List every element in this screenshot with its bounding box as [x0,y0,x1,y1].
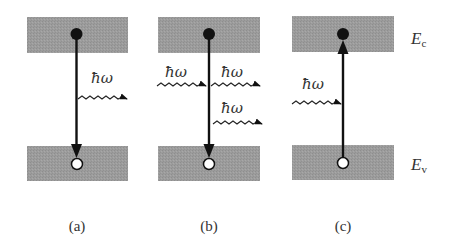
panel-b: ħω ħω ħω (b) [157,17,262,235]
photon-energy-label: ħω [91,69,113,87]
electron [337,28,349,40]
electron [203,28,215,40]
svg-text:Ec: Ec [410,29,426,49]
panel-caption: (a) [69,218,86,235]
svg-text:Ev: Ev [410,155,427,175]
panel-a: ħω (a) [27,17,128,235]
photon-wave-incoming [292,101,341,104]
valence-band-label: Ev [410,155,427,175]
band-diagram: ħω (a) ħω ħω ħω (b) ħω (c) Ec Ev [0,0,460,249]
photon-wave-outgoing [211,83,260,86]
energy-symbol: E [410,29,422,48]
photon-energy-label: ħω [221,99,243,117]
energy-subscript: v [421,163,427,175]
hole [72,159,83,170]
photon-wave-outgoing [213,121,262,124]
energy-subscript: c [421,37,426,49]
energy-symbol: E [410,155,422,174]
panel-caption: (b) [200,218,218,235]
photon-energy-label: ħω [221,63,243,81]
panel-caption: (c) [335,218,352,235]
photon-energy-label: ħω [302,75,324,93]
conduction-band-label: Ec [410,29,426,49]
hole [338,158,349,169]
photon-energy-label: ħω [165,63,187,81]
electron [71,28,83,40]
photon-wave-incoming [157,83,206,86]
hole [204,159,215,170]
photon-wave-outgoing [78,96,127,99]
panel-c: ħω (c) [292,16,394,235]
